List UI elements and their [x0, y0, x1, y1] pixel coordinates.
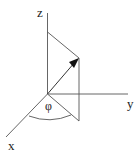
- vector-arrow: [48, 58, 80, 94]
- coordinate-diagram: [0, 0, 139, 152]
- x-axis: [6, 94, 48, 137]
- x-axis-label: x: [8, 139, 15, 152]
- xy-projection-line: [48, 94, 80, 121]
- y-axis-label: y: [127, 97, 134, 110]
- z-axis-label: z: [37, 6, 43, 19]
- phi-angle-label: φ: [45, 100, 52, 112]
- projection-top-line: [48, 32, 80, 58]
- phi-arc: [29, 115, 71, 120]
